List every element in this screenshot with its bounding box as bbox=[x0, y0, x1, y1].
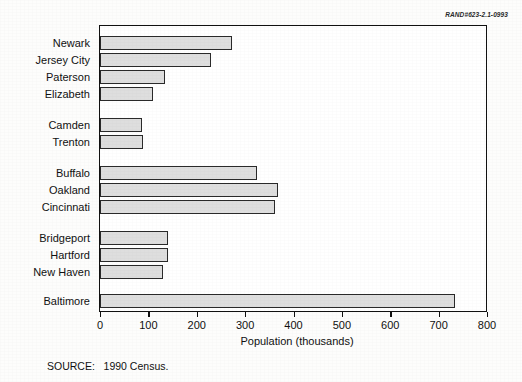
bar-cincinnati bbox=[100, 200, 275, 214]
category-label-hartford: Hartford bbox=[50, 249, 90, 261]
category-label-baltimore: Baltimore bbox=[44, 295, 90, 307]
bar-paterson bbox=[100, 70, 165, 84]
category-label-elizabeth: Elizabeth bbox=[45, 88, 90, 100]
x-tick-label-200: 200 bbox=[188, 319, 206, 331]
bar-buffalo bbox=[100, 166, 257, 180]
category-label-paterson: Paterson bbox=[46, 71, 90, 83]
category-label-oakland: Oakland bbox=[49, 184, 90, 196]
x-tick-label-300: 300 bbox=[236, 319, 254, 331]
bar-hartford bbox=[100, 248, 168, 262]
bar-oakland bbox=[100, 183, 278, 197]
x-tick-label-800: 800 bbox=[478, 319, 496, 331]
x-tick-mark-500 bbox=[342, 312, 343, 317]
x-tick-mark-200 bbox=[197, 312, 198, 317]
bar-bridgeport bbox=[100, 231, 168, 245]
category-label-jersey-city: Jersey City bbox=[36, 54, 90, 66]
bars-layer bbox=[100, 26, 487, 311]
category-label-buffalo: Buffalo bbox=[56, 167, 90, 179]
x-tick-label-100: 100 bbox=[139, 319, 157, 331]
x-tick-label-500: 500 bbox=[333, 319, 351, 331]
category-label-cincinnati: Cincinnati bbox=[42, 201, 90, 213]
bar-new-haven bbox=[100, 265, 163, 279]
x-tick-mark-0 bbox=[100, 312, 101, 317]
x-axis-title: Population (thousands) bbox=[0, 335, 522, 347]
x-tick-label-0: 0 bbox=[97, 319, 103, 331]
x-tick-mark-400 bbox=[294, 312, 295, 317]
bar-elizabeth bbox=[100, 87, 153, 101]
bar-trenton bbox=[100, 135, 143, 149]
category-label-new-haven: New Haven bbox=[33, 266, 90, 278]
x-tick-label-400: 400 bbox=[284, 319, 302, 331]
category-axis-labels: NewarkJersey CityPatersonElizabethCamden… bbox=[0, 26, 95, 311]
bar-camden bbox=[100, 118, 142, 132]
x-tick-mark-800 bbox=[487, 312, 488, 317]
rand-document-id: RAND#623-2.1-0993 bbox=[445, 11, 508, 18]
x-tick-mark-100 bbox=[148, 312, 149, 317]
x-tick-mark-700 bbox=[439, 312, 440, 317]
category-label-trenton: Trenton bbox=[52, 136, 90, 148]
x-tick-label-600: 600 bbox=[381, 319, 399, 331]
x-tick-mark-300 bbox=[245, 312, 246, 317]
bar-baltimore bbox=[100, 294, 455, 308]
category-label-newark: Newark bbox=[53, 37, 90, 49]
bar-newark bbox=[100, 36, 232, 50]
x-axis-title-text: Population (thousands) bbox=[168, 335, 353, 347]
source-note: SOURCE: 1990 Census. bbox=[47, 360, 168, 372]
bar-jersey-city bbox=[100, 53, 211, 67]
x-tick-label-700: 700 bbox=[429, 319, 447, 331]
x-tick-mark-600 bbox=[390, 312, 391, 317]
category-label-camden: Camden bbox=[48, 119, 90, 131]
category-label-bridgeport: Bridgeport bbox=[39, 232, 90, 244]
figure-container: RAND#623-2.1-0993 NewarkJersey CityPater… bbox=[0, 0, 522, 382]
